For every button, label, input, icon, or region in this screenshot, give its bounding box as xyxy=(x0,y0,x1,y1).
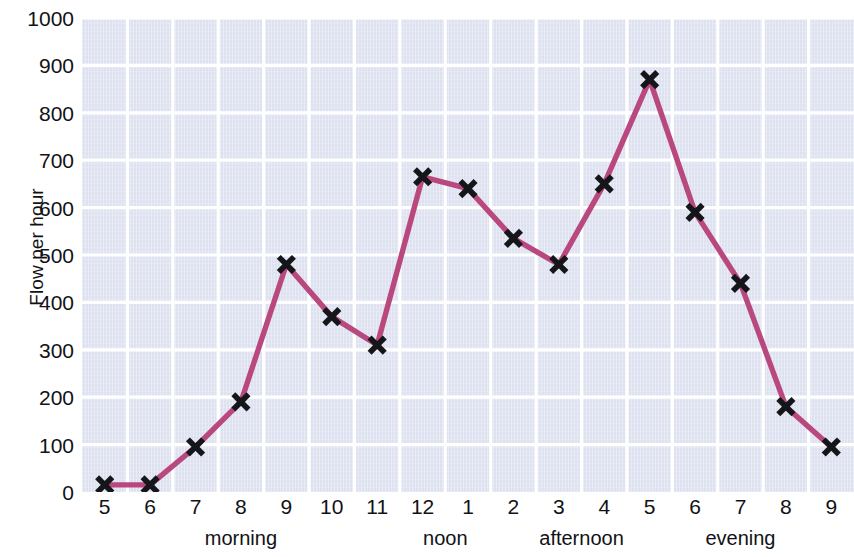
x-tick-label: 11 xyxy=(366,496,388,517)
x-tick-label: 6 xyxy=(689,496,701,517)
y-tick-label: 400 xyxy=(39,292,74,313)
plot-area xyxy=(82,18,854,492)
x-tick-label: 5 xyxy=(644,496,656,517)
data-point-marker xyxy=(824,439,839,454)
y-tick-label: 0 xyxy=(62,482,74,503)
y-axis-tick-labels: 01002003004005006007008009001000 xyxy=(0,0,78,557)
data-point-marker xyxy=(324,309,339,324)
x-tick-label: 7 xyxy=(190,496,202,517)
y-tick-label: 200 xyxy=(39,387,74,408)
x-tick-label: 6 xyxy=(144,496,156,517)
x-tick-label: 5 xyxy=(99,496,111,517)
y-tick-label: 600 xyxy=(39,197,74,218)
x-tick-label: 3 xyxy=(553,496,565,517)
data-point-marker xyxy=(188,439,203,454)
period-label: morning xyxy=(205,528,277,548)
period-label: afternoon xyxy=(539,528,624,548)
x-tick-label: 12 xyxy=(411,496,434,517)
series-line xyxy=(105,80,832,485)
y-tick-label: 800 xyxy=(39,102,74,123)
y-tick-label: 500 xyxy=(39,245,74,266)
y-tick-label: 100 xyxy=(39,434,74,455)
x-axis-tick-labels: 56789101112123456789 xyxy=(82,496,854,524)
y-tick-label: 700 xyxy=(39,150,74,171)
y-tick-label: 1000 xyxy=(27,8,74,29)
data-series-flow-per-hour xyxy=(82,18,854,492)
x-tick-label: 2 xyxy=(508,496,520,517)
y-tick-label: 900 xyxy=(39,55,74,76)
x-tick-label: 7 xyxy=(735,496,747,517)
x-tick-label: 9 xyxy=(281,496,293,517)
y-tick-label: 300 xyxy=(39,339,74,360)
line-chart: Flow per hour 01002003004005006007008009… xyxy=(0,0,854,557)
x-tick-label: 8 xyxy=(780,496,792,517)
x-tick-label: 8 xyxy=(235,496,247,517)
period-label: noon xyxy=(423,528,468,548)
x-tick-label: 1 xyxy=(462,496,474,517)
x-tick-label: 9 xyxy=(825,496,837,517)
period-label: evening xyxy=(705,528,775,548)
x-axis-period-labels: morningnoonafternoonevening xyxy=(82,528,854,554)
x-tick-label: 4 xyxy=(598,496,610,517)
x-tick-label: 10 xyxy=(320,496,343,517)
